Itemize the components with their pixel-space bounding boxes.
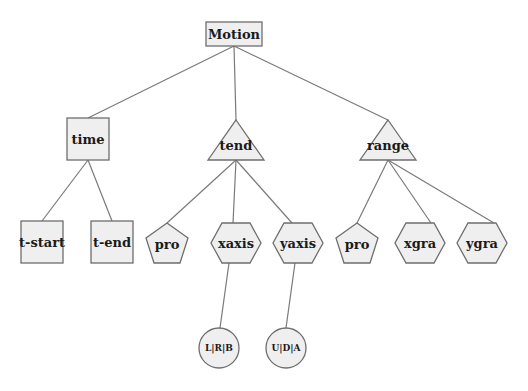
edge-range-xgra	[388, 160, 431, 223]
node-yaxis: yaxis	[273, 223, 323, 263]
edge-tend-yaxis	[236, 160, 292, 223]
node-pro-range: pro	[336, 223, 378, 263]
node-lrb: L|R|B	[199, 328, 239, 368]
edge-range-pro	[357, 160, 388, 223]
node-label: time	[72, 132, 105, 147]
motion-tree-diagram: Motion time tend range t-start t-end pro…	[0, 0, 528, 391]
node-pro-tend: pro	[146, 223, 188, 263]
edge-tend-pro	[167, 160, 236, 223]
node-xaxis: xaxis	[211, 223, 261, 263]
edge-xaxis-lrb	[220, 263, 229, 328]
edge-range-ygra	[388, 160, 494, 223]
node-label: tend	[220, 138, 253, 153]
edge-time-tstart	[42, 160, 88, 221]
node-label: Motion	[208, 27, 261, 42]
node-t-start: t-start	[19, 221, 65, 263]
node-label: t-end	[93, 235, 131, 250]
edge-motion-range	[234, 46, 388, 120]
edge-tend-xaxis	[233, 160, 236, 223]
edge-yaxis-uda	[286, 263, 295, 328]
node-time: time	[67, 118, 109, 160]
node-label: ygra	[465, 236, 498, 251]
node-label: xaxis	[218, 236, 254, 251]
node-t-end: t-end	[91, 221, 133, 263]
node-xgra: xgra	[395, 223, 445, 263]
node-label: U|D|A	[271, 343, 301, 354]
node-range: range	[360, 120, 416, 160]
edges	[42, 46, 494, 328]
node-label: range	[367, 138, 409, 153]
edge-motion-tend	[234, 46, 236, 120]
node-ygra: ygra	[457, 223, 507, 263]
node-uda: U|D|A	[266, 328, 306, 368]
node-label: xgra	[404, 236, 437, 251]
node-label: yaxis	[279, 236, 316, 251]
node-tend: tend	[208, 120, 264, 160]
node-label: pro	[155, 237, 180, 252]
node-label: t-start	[19, 235, 65, 250]
node-label: L|R|B	[205, 343, 233, 354]
node-motion: Motion	[206, 22, 262, 46]
node-label: pro	[345, 237, 370, 252]
edge-motion-time	[88, 46, 234, 118]
edge-time-tend	[88, 160, 112, 221]
